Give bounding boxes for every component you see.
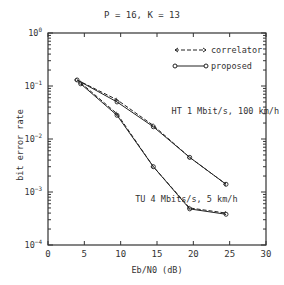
legend-label: proposed: [211, 61, 252, 71]
x-tick-label: 15: [152, 249, 163, 259]
y-tick-label: 10−4: [25, 238, 43, 250]
series-line: [77, 80, 226, 184]
series-line: [77, 80, 226, 184]
y-tick-label: 100: [28, 26, 42, 38]
plot-area: 05101520253010−410−310−210−1100 correlat…: [0, 0, 284, 285]
y-tick-label: 10−1: [25, 79, 43, 91]
legend-label: correlator: [211, 45, 262, 55]
x-tick-label: 30: [261, 249, 272, 259]
x-tick-label: 25: [224, 249, 235, 259]
annotation-label: TU 4 Mbits/s, 5 km/h: [135, 194, 237, 204]
circle-icon: [173, 64, 177, 68]
circle-icon: [204, 64, 208, 68]
annotations: HT 1 Mbit/s, 100 km/hTU 4 Mbits/s, 5 km/…: [135, 106, 279, 204]
x-tick-label: 20: [188, 249, 199, 259]
annotation-label: HT 1 Mbit/s, 100 km/h: [172, 106, 279, 116]
legend: correlatorproposed: [173, 45, 262, 71]
x-tick-label: 0: [45, 249, 50, 259]
x-tick-label: 10: [115, 249, 126, 259]
y-tick-label: 10−3: [25, 185, 43, 197]
y-tick-label: 10−2: [25, 132, 43, 144]
x-tick-label: 5: [82, 249, 87, 259]
